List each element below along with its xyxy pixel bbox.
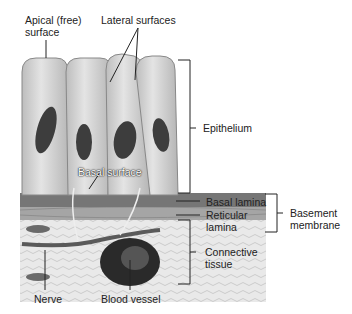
nucleus: [76, 124, 92, 160]
lateral-surfaces-label: Lateral surfaces: [101, 14, 176, 26]
connective-tissue-label: Connective tissue: [205, 246, 258, 270]
apical-surface-label: Apical (free) surface: [25, 14, 82, 38]
basement-membrane-label: Basement membrane: [290, 207, 340, 231]
reticular-lamina-label: Reticular lamina: [206, 209, 247, 233]
basal-surface-label: Basal surface: [78, 166, 142, 178]
basal-lamina-label: Basal lamina: [206, 196, 266, 208]
blood-vessel-label: Blood vessel: [101, 293, 161, 305]
epithelium-illustration: [0, 0, 352, 314]
nerve-label: Nerve: [34, 293, 62, 305]
epithelium-label: Epithelium: [203, 122, 252, 134]
